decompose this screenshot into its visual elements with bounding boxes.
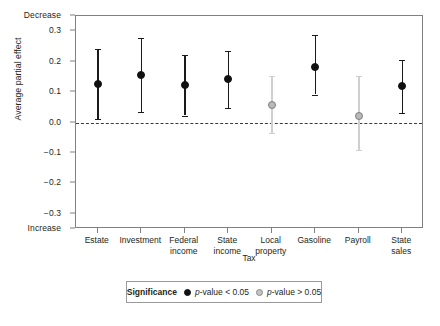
error-bar-cap-lower [399, 113, 405, 114]
data-point-marker [311, 63, 319, 71]
x-axis: EstateInvestmentFederalincomeStateincome… [75, 229, 423, 269]
plot-area [75, 15, 423, 228]
x-axis-tick-label: Investment [119, 235, 161, 246]
error-bar-cap-lower [269, 133, 275, 134]
y-axis-tick-label: −0.2 [44, 177, 61, 187]
data-point-marker [268, 101, 276, 109]
legend-entry-significant: p-value < 0.05 [184, 287, 249, 297]
error-bar-cap-lower [138, 112, 144, 113]
x-axis-tick-label: Gasoline [297, 235, 331, 246]
legend-title: Significance [127, 287, 177, 297]
error-bar-cap-lower [95, 119, 101, 120]
error-bar-cap-lower [225, 108, 231, 109]
y-axis-tick-label: 0.0 [49, 117, 61, 127]
error-bar-cap-upper [182, 55, 188, 56]
error-bar-cap-upper [225, 51, 231, 52]
y-axis-tick-label: 0.3 [49, 25, 61, 35]
error-bar-cap-lower [312, 95, 318, 96]
error-bar-cap-upper [95, 49, 101, 50]
x-axis-tick-mark [401, 228, 402, 233]
chart-figure: 0.30.20.10.0−0.1−0.2−0.3DecreaseIncrease… [0, 0, 440, 326]
y-axis-tick-label: 0.1 [49, 86, 61, 96]
error-bar-cap-lower [182, 116, 188, 117]
legend-entry-label: p-value < 0.05 [195, 287, 249, 297]
x-axis-title: Tax [75, 253, 423, 263]
x-axis-tick-mark [314, 228, 315, 233]
x-axis-tick-mark [271, 228, 272, 233]
error-bar-cap-upper [269, 76, 275, 77]
x-axis-tick-label: Estate [85, 235, 109, 246]
legend-entry-label: p-value > 0.05 [267, 287, 321, 297]
error-bar-cap-upper [138, 38, 144, 39]
x-axis-tick-mark [184, 228, 185, 233]
x-axis-tick-mark [227, 228, 228, 233]
error-bar-cap-lower [356, 150, 362, 151]
x-axis-tick-label: Payroll [345, 235, 371, 246]
error-bar-cap-upper [356, 76, 362, 77]
x-axis-tick-mark [358, 228, 359, 233]
filled-circle-icon [184, 289, 191, 296]
y-axis-tick-label: −0.3 [44, 208, 61, 218]
data-point-marker [224, 75, 232, 83]
data-point-marker [94, 80, 102, 88]
data-point-marker [355, 112, 363, 120]
y-axis-tick-label: 0.2 [49, 56, 61, 66]
y-axis-top-annotation: Decrease [24, 10, 61, 20]
legend-entry-not-significant: p-value > 0.05 [256, 287, 321, 297]
x-axis-tick-mark [140, 228, 141, 233]
data-point-marker [181, 81, 189, 89]
data-point-marker [137, 71, 145, 79]
data-point-marker [398, 82, 406, 90]
y-axis-tick-label: −0.1 [44, 147, 61, 157]
y-axis-bottom-annotation: Increase [28, 223, 61, 233]
error-bar-cap-upper [399, 60, 405, 61]
y-axis-title: Average partial effect [13, 4, 23, 154]
zero-reference-line [76, 123, 422, 124]
y-axis: 0.30.20.10.0−0.1−0.2−0.3DecreaseIncrease [0, 15, 68, 228]
open-circle-icon [256, 289, 263, 296]
error-bar-cap-upper [312, 35, 318, 36]
x-axis-tick-mark [97, 228, 98, 233]
legend: Significance p-value < 0.05 p-value > 0.… [126, 281, 322, 303]
